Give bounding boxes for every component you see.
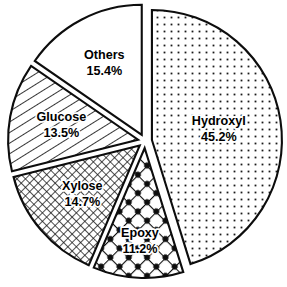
pie-chart-figure: Hydroxyl45.2%Hydroxyl45.2%Epoxy11.2%Epox… <box>0 0 287 287</box>
pie-chart-svg: Hydroxyl45.2%Hydroxyl45.2%Epoxy11.2%Epox… <box>0 0 287 287</box>
label-name: Hydroxyl <box>192 114 246 128</box>
label-name: Epoxy <box>121 226 159 240</box>
label-name: Xylose <box>62 179 103 193</box>
label-name: Glucose <box>37 110 87 124</box>
label-value: 45.2% <box>201 130 237 144</box>
label-value: 15.4% <box>86 64 122 78</box>
label-value: 14.7% <box>64 195 100 209</box>
label-value: 11.2% <box>122 242 157 256</box>
label-value: 13.5% <box>44 126 80 140</box>
label-name: Others <box>84 48 125 62</box>
